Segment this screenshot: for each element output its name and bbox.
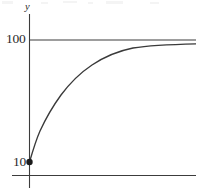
chart-figure: 100 10 y	[0, 0, 196, 191]
initial-point-marker	[26, 159, 32, 165]
growth-curve-path	[30, 44, 197, 162]
chart-canvas	[0, 0, 196, 191]
y-axis-title: y	[25, 2, 30, 13]
y-tick-label-100: 100	[6, 32, 26, 46]
y-tick-label-10: 10	[13, 155, 26, 169]
